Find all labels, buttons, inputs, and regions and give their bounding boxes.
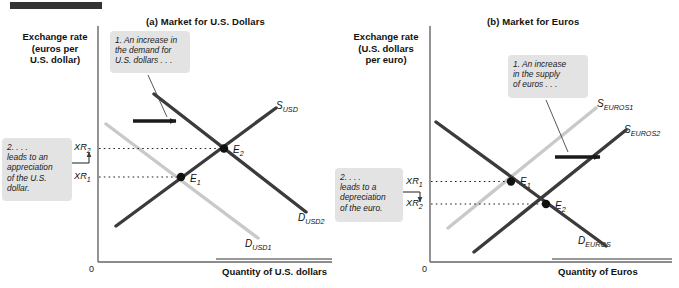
panel-a-ytick-xr2-sub: 2: [87, 147, 91, 154]
panel-b-ytick-xr1-sub: 1: [419, 181, 423, 188]
panel-b-e2-sub: 2: [562, 205, 566, 214]
panel-a-note-1-line3: U.S. dollars . . .: [115, 55, 172, 65]
panel-b-curves: [436, 108, 626, 252]
panel-a-note-2-line1: 2. . . .: [7, 142, 28, 152]
panel-b-note-1-line1: 1. An increase: [513, 59, 566, 69]
panel-a-note-2-line4: of the U.S.: [7, 173, 47, 183]
panel-a-note-1-line2: the demand for: [115, 45, 171, 55]
panel-b-ytick-xr2-text: XR: [406, 198, 419, 208]
panel-b-y-axis-label: Exchange rate (U.S. dollars per euro): [345, 31, 427, 66]
panel-b-supply2-curve: [474, 130, 626, 252]
decorative-rule: [10, 2, 102, 9]
panel-b-equilibrium-dot-e2: [542, 200, 550, 208]
panel-b-title: (b) Market for Euros: [487, 16, 579, 27]
panel-b-note-2-line4: of the euro.: [340, 203, 382, 213]
panel-a-equilibrium-label-e2: E2: [233, 144, 244, 158]
panel-a-curve-label-demand1: DUSD1: [245, 238, 271, 252]
panel-a-e2-sub: 2: [240, 149, 244, 158]
panel-b-curve-label-supply2: SEUROS2: [624, 124, 660, 138]
panel-a-price-guides: [99, 149, 224, 178]
panel-b-y-axis-line2: (U.S. dollars: [358, 43, 413, 54]
panel-a-ytick-xr2: XR2: [74, 142, 91, 154]
panel-a-y-axis-line2: (euros per: [32, 43, 78, 54]
panel-b-note-1-leader: [546, 100, 568, 152]
panel-a-demand1-curve: [106, 124, 258, 238]
panel-b-curve-label-supply1: SEUROS1: [597, 98, 633, 112]
panel-a-e1-letter: E: [190, 173, 197, 184]
panel-b-note-2: 2. . . . leads to a depreciation of the …: [335, 168, 403, 222]
panel-b-note-1-line2: in the supply: [513, 69, 560, 79]
panel-b-x-axis-label: Quantity of Euros: [558, 266, 638, 277]
panel-b-ytick-xr1-text: XR: [406, 176, 419, 186]
panel-a-demand1-sub: USD1: [252, 243, 271, 252]
panel-a-curve-label-supply: SUSD: [276, 100, 298, 114]
panel-a-curves: [106, 94, 306, 238]
panel-b-supply1-curve: [448, 108, 596, 228]
panel-a-equilibrium-dot-e1: [177, 173, 185, 181]
panel-b-supply2-sub: EUROS2: [631, 129, 661, 138]
panel-a-y-axis-line1: Exchange rate: [23, 31, 88, 42]
panel-a-e2-letter: E: [233, 144, 240, 155]
panel-b-supply1-sub: EUROS1: [604, 103, 634, 112]
panel-b-e2-letter: E: [555, 200, 562, 211]
panel-b-equilibrium-label-e2: E2: [555, 200, 566, 214]
panel-a-ytick-xr1-sub: 1: [87, 176, 91, 183]
panel-b-y-axis-line3: per euro): [365, 54, 406, 65]
panel-a-equilibrium-dot-e2: [220, 144, 228, 152]
panel-b-note-1: 1. An increase in the supply of euros . …: [508, 55, 588, 98]
panel-a-note-1-leader: [148, 75, 167, 117]
panel-a-demand2-sub: USD2: [305, 217, 324, 226]
panel-a-note-1-line1: 1. An increase in: [115, 35, 177, 45]
panel-a-y-axis-label: Exchange rate (euros per U.S. dollar): [14, 31, 96, 66]
panel-a-note-1: 1. An increase in the demand for U.S. do…: [110, 31, 190, 73]
panel-b-equilibrium-dot-e1: [507, 177, 515, 185]
panel-b-ytick-xr2: XR2: [406, 198, 423, 210]
panel-b-supply1-letter: S: [597, 98, 604, 109]
panel-b-note-2-line3: depreciation: [340, 192, 386, 202]
panel-b-demand-sub: EUROS: [585, 240, 611, 249]
panel-b-e1-sub: 1: [527, 181, 531, 190]
panel-b-e1-letter: E: [520, 176, 527, 187]
panel-a-note-2-line2: leads to an: [7, 152, 48, 162]
panel-b-note-2-line2: leads to a: [340, 182, 376, 192]
panel-b-y-axis-line1: Exchange rate: [354, 31, 419, 42]
panel-a-title: (a) Market for U.S. Dollars: [146, 16, 265, 27]
panel-b-supply2-letter: S: [624, 124, 631, 135]
panel-a-ytick-xr1-text: XR: [74, 171, 87, 181]
panel-a-x-axis-label: Quantity of U.S. dollars: [222, 266, 327, 277]
panel-a-note-2: 2. . . . leads to an appreciation of the…: [2, 138, 72, 201]
panel-a-ytick-xr2-text: XR: [74, 142, 87, 152]
panel-b-origin-label: 0: [422, 264, 427, 274]
panel-b-note-1-line3: of euros . . .: [513, 79, 557, 89]
panel-a-y-axis-line3: U.S. dollar): [30, 54, 80, 65]
panel-a-curve-label-demand2: DUSD2: [298, 212, 324, 226]
panel-a-supply-letter: S: [276, 100, 283, 111]
panel-a-e1-sub: 1: [197, 178, 201, 187]
panel-a-ytick-xr1: XR1: [74, 171, 91, 183]
panel-a-note-2-line3: appreciation: [7, 162, 53, 172]
panel-a-equilibrium-label-e1: E1: [190, 173, 201, 187]
panel-b-note-2-line1: 2. . . .: [340, 172, 361, 182]
panel-b-equilibrium-label-e1: E1: [520, 176, 531, 190]
exchange-rate-figure: (a) Market for U.S. Dollars Exchange rat…: [0, 0, 679, 288]
panel-a-note-2-line5: dollar.: [7, 183, 30, 193]
panel-b-ytick-xr1: XR1: [406, 176, 423, 188]
panel-b-ytick-xr2-sub: 2: [419, 203, 423, 210]
panel-a-origin-label: 0: [89, 264, 94, 274]
panel-a-supply-sub: USD: [283, 105, 298, 114]
panel-a-supply-curve: [116, 108, 276, 226]
panel-b-curve-label-demand: DEUROS: [578, 235, 611, 249]
